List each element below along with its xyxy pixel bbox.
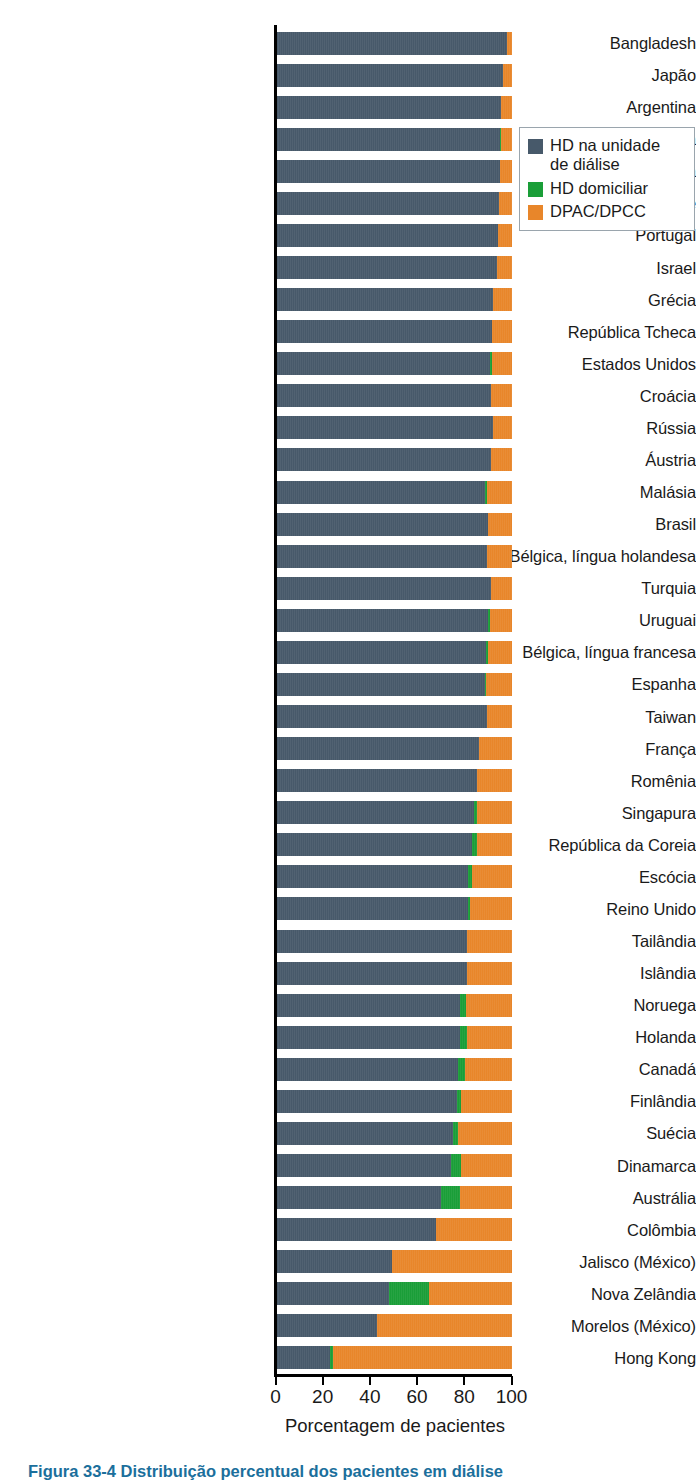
bar-row (276, 64, 512, 87)
bar-row (276, 801, 512, 824)
bar-segment-hd-unit (276, 577, 491, 600)
bar-segment-pd (477, 801, 512, 824)
bar-row (276, 481, 512, 504)
bar-segment-pd (497, 256, 512, 279)
bar-row (276, 320, 512, 343)
bar-segment-pd (479, 737, 512, 760)
legend-swatch-icon (528, 139, 543, 154)
bar-segment-pd (472, 865, 512, 888)
bar-segment-hd-unit (276, 1346, 330, 1369)
bar-segment-pd (477, 833, 512, 856)
bar-segment-hd-unit (276, 160, 500, 183)
bar-segment-pd (492, 352, 512, 375)
bar-segment-hd-unit (276, 192, 499, 215)
bar-row (276, 930, 512, 953)
bar-row (276, 416, 512, 439)
bar-segment-pd (488, 641, 512, 664)
legend-swatch-icon (528, 182, 543, 197)
bar-segment-pd (333, 1346, 512, 1369)
bar-segment-pd (458, 1122, 512, 1145)
bar-segment-hd-unit (276, 32, 507, 55)
bar-segment-hd-unit (276, 64, 503, 87)
bar-segment-pd (470, 897, 512, 920)
bar-segment-pd (461, 1090, 512, 1113)
y-axis-line (274, 25, 277, 1376)
bar-row (276, 545, 512, 568)
legend-item: HD domiciliar (528, 179, 688, 198)
bar-row (276, 384, 512, 407)
bar-segment-hd-unit (276, 288, 493, 311)
bar-segment-hd-home (451, 1154, 462, 1177)
bar-row (276, 1090, 512, 1113)
bar-row (276, 192, 512, 215)
bar-segment-pd (429, 1282, 512, 1305)
bar-segment-hd-unit (276, 769, 477, 792)
bar-segment-pd (490, 609, 512, 632)
bar-segment-hd-unit (276, 352, 490, 375)
bar-segment-hd-unit (276, 128, 500, 151)
bar-segment-hd-unit (276, 801, 474, 824)
bar-segment-pd (500, 160, 512, 183)
bar-row (276, 737, 512, 760)
bar-segment-pd (467, 1026, 512, 1049)
bar-segment-pd (492, 320, 512, 343)
bar-segment-pd (501, 96, 512, 119)
bar-row (276, 128, 512, 151)
x-tick-label: 80 (442, 1387, 486, 1406)
bar-segment-hd-unit (276, 1186, 441, 1209)
bar-segment-hd-unit (276, 1314, 377, 1337)
bar-row (276, 1186, 512, 1209)
bar-segment-hd-unit (276, 96, 501, 119)
bar-segment-pd (487, 481, 512, 504)
x-tick (322, 1376, 324, 1385)
bar-row (276, 1346, 512, 1369)
bar-segment-pd (477, 769, 512, 792)
bar-row (276, 160, 512, 183)
bar-row (276, 1218, 512, 1241)
figure-caption: Figura 33-4 Distribuição percentual dos … (28, 1461, 678, 1482)
bar-segment-hd-home (460, 1026, 467, 1049)
x-tick (511, 1376, 513, 1385)
bar-segment-hd-home (389, 1282, 429, 1305)
bar-segment-pd (460, 1186, 512, 1209)
x-tick (416, 1376, 418, 1385)
x-tick-label: 60 (395, 1387, 439, 1406)
bar-row (276, 769, 512, 792)
x-tick-label: 20 (301, 1387, 345, 1406)
bar-segment-hd-unit (276, 897, 468, 920)
bar-row (276, 962, 512, 985)
bar-row (276, 609, 512, 632)
chart-legend: HD na unidade de diáliseHD domiciliarDPA… (519, 127, 695, 231)
bar-row (276, 705, 512, 728)
bar-segment-pd (491, 384, 512, 407)
bar-segment-hd-unit (276, 416, 493, 439)
bar-row (276, 256, 512, 279)
bar-row (276, 288, 512, 311)
bar-segment-pd (436, 1218, 512, 1241)
bar-row (276, 448, 512, 471)
bar-segment-hd-unit (276, 320, 492, 343)
bar-segment-hd-unit (276, 545, 487, 568)
bar-row (276, 994, 512, 1017)
bar-segment-hd-home (441, 1186, 460, 1209)
bar-row (276, 641, 512, 664)
bar-row (276, 1314, 512, 1337)
legend-label: HD domiciliar (550, 179, 648, 198)
x-tick (275, 1376, 277, 1385)
legend-item: HD na unidade de diálise (528, 136, 688, 175)
bar-row (276, 833, 512, 856)
x-tick-label: 100 (490, 1387, 534, 1406)
bar-row (276, 577, 512, 600)
bar-segment-pd (501, 128, 512, 151)
bar-segment-hd-unit (276, 513, 488, 536)
bar-segment-hd-unit (276, 609, 488, 632)
bar-segment-hd-unit (276, 224, 498, 247)
bar-row (276, 96, 512, 119)
bar-segment-hd-unit (276, 256, 497, 279)
bar-segment-pd (493, 416, 512, 439)
x-axis-title: Porcentagem de pacientes (230, 1415, 560, 1437)
bar-segment-hd-unit (276, 1250, 392, 1273)
legend-item: DPAC/DPCC (528, 202, 688, 221)
bar-segment-pd (467, 962, 512, 985)
